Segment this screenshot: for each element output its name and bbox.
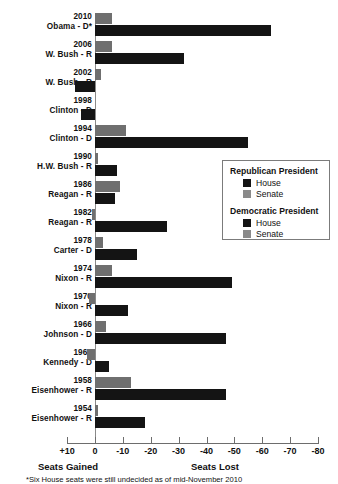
bar-senate [95, 125, 126, 136]
row-bars [0, 264, 338, 292]
row-bars [0, 12, 338, 40]
bar-senate [95, 237, 103, 248]
axis-tick [207, 437, 208, 443]
row-bars [0, 292, 338, 320]
chart-row: 1970Nixon - R [0, 292, 338, 320]
chart-row: 1998Clinton - D [0, 96, 338, 124]
row-bars [0, 124, 338, 152]
row-bars [0, 68, 338, 96]
bar-house [95, 249, 137, 260]
bar-house [95, 53, 184, 64]
axis-tick [67, 437, 68, 443]
chart-row: 2010Obama - D* [0, 12, 338, 40]
bar-senate [95, 41, 112, 52]
legend-item-republican-house: House [243, 178, 329, 188]
axis-tick [123, 437, 124, 443]
bar-senate [95, 265, 112, 276]
bar-house [95, 137, 248, 148]
axis-caption-left: Seats Gained [8, 461, 128, 472]
legend-title-republican: Republican President [230, 166, 329, 176]
bar-senate [92, 209, 95, 220]
axis-tick [290, 437, 291, 443]
house-swatch-icon [243, 219, 251, 227]
row-bars [0, 320, 338, 348]
bar-house [95, 25, 271, 36]
bar-senate [95, 13, 112, 24]
chart-row: 1962Kennedy - D [0, 348, 338, 376]
bar-senate [95, 69, 101, 80]
chart-row: 1966Johnson - D [0, 320, 338, 348]
bar-house [95, 277, 232, 288]
legend-label-republican-senate: Senate [256, 189, 283, 199]
row-bars [0, 348, 338, 376]
bar-senate [95, 405, 98, 416]
row-bars [0, 404, 338, 432]
bar-house [95, 305, 128, 316]
row-bars [0, 376, 338, 404]
bar-senate [95, 321, 106, 332]
chart-legend: Republican President House Senate Democr… [222, 160, 330, 240]
bar-house [95, 221, 167, 232]
bar-house [95, 417, 145, 428]
chart-row: 1958Eisenhower - R [0, 376, 338, 404]
axis-tick [234, 437, 235, 443]
bar-senate [89, 293, 95, 304]
legend-label-republican-house: House [256, 178, 281, 188]
bar-senate [87, 349, 95, 360]
row-bars [0, 236, 338, 264]
row-bars [0, 96, 338, 124]
row-bars [0, 40, 338, 68]
bar-house [75, 81, 95, 92]
legend-item-democratic-house: House [243, 218, 329, 228]
bar-house [81, 109, 95, 120]
chart-row: 1994Clinton - D [0, 124, 338, 152]
axis-tick [318, 437, 319, 443]
axis-caption-right: Seats Lost [155, 461, 275, 472]
x-axis-line [67, 443, 319, 444]
axis-tick [179, 437, 180, 443]
senate-swatch-icon [243, 230, 251, 238]
senate-swatch-icon [243, 190, 251, 198]
axis-tick [262, 437, 263, 443]
chart-row: 2002W. Bush - R [0, 68, 338, 96]
bar-house [95, 193, 115, 204]
chart-footnote: *Six House seats were still undecided as… [26, 475, 242, 484]
axis-tick [95, 437, 96, 443]
legend-label-democratic-senate: Senate [256, 229, 283, 239]
bar-senate [95, 181, 120, 192]
chart-row: 2006W. Bush - R [0, 40, 338, 68]
axis-tick-label: -80 [298, 446, 338, 456]
bar-senate [95, 377, 131, 388]
bar-senate [95, 153, 98, 164]
axis-tick [151, 437, 152, 443]
bar-house [95, 333, 226, 344]
legend-label-democratic-house: House [256, 218, 281, 228]
bar-house [95, 361, 109, 372]
bar-house [95, 165, 117, 176]
chart-row: 1954Eisenhower - R [0, 404, 338, 432]
legend-item-democratic-senate: Senate [243, 229, 329, 239]
house-swatch-icon [243, 179, 251, 187]
bar-house [95, 389, 226, 400]
chart-row: 1974Nixon - R [0, 264, 338, 292]
legend-title-democratic: Democratic President [230, 206, 329, 216]
legend-item-republican-senate: Senate [243, 189, 329, 199]
chart-row: 1978Carter - D [0, 236, 338, 264]
